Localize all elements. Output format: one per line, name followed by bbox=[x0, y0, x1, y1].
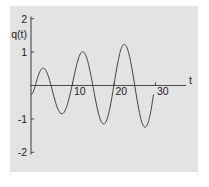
chart-canvas: 102030 21-1-2 q(t) t bbox=[0, 0, 209, 187]
x-tick-label-30: 30 bbox=[157, 85, 169, 97]
x-axis-label: t bbox=[189, 74, 192, 86]
y-tick-label-2: 2 bbox=[21, 13, 27, 25]
y-axis-label: q(t) bbox=[11, 28, 27, 40]
y-tick-label--1: -1 bbox=[18, 113, 27, 125]
y-tick-label-1: 1 bbox=[21, 46, 27, 58]
figure-root: 102030 21-1-2 q(t) t bbox=[0, 0, 209, 187]
x-axis-ticks: 102030 bbox=[73, 82, 169, 97]
caption-fragment bbox=[0, 176, 209, 187]
x-tick-label-20: 20 bbox=[116, 85, 128, 97]
x-tick-label-10: 10 bbox=[74, 85, 86, 97]
y-tick-label--2: -2 bbox=[18, 146, 27, 158]
